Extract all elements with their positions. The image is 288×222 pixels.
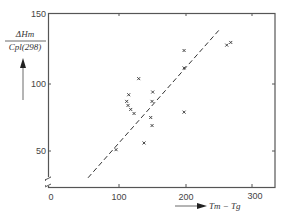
data-point-x-marker xyxy=(151,124,154,127)
data-point-x-marker xyxy=(151,91,154,94)
data-point-x-marker xyxy=(127,93,130,96)
data-point-x-marker xyxy=(225,44,228,47)
chart: 0 100 200 300 150 100 50 ΔHm Cpl(298) Tm… xyxy=(0,0,288,222)
plot-frame xyxy=(49,14,276,188)
x-tick-300: 300 xyxy=(247,191,262,201)
data-point-x-marker xyxy=(137,77,140,80)
data-point-x-marker xyxy=(127,104,130,107)
y-tick-100: 100 xyxy=(31,79,46,89)
data-point-x-marker xyxy=(151,100,154,103)
x-axis-label: Tm − Tg xyxy=(209,201,241,211)
data-point-x-marker xyxy=(143,141,146,144)
ticks xyxy=(48,13,275,187)
data-point-x-marker xyxy=(149,116,152,119)
x-tick-100: 100 xyxy=(111,192,126,202)
y-tick-50: 50 xyxy=(36,146,46,156)
fit-line xyxy=(88,30,219,177)
data-point-x-marker xyxy=(229,41,232,44)
y-axis-label-denominator: Cpl(298) xyxy=(9,42,42,52)
y-axis-arrow-icon xyxy=(20,58,26,68)
data-point-x-marker xyxy=(183,49,186,52)
data-point-x-marker xyxy=(129,108,132,111)
data-point-x-marker xyxy=(183,111,186,114)
data-point-x-marker xyxy=(125,100,128,103)
data-point-x-marker xyxy=(115,148,118,151)
x-tick-200: 200 xyxy=(178,192,193,202)
x-axis-arrow-icon xyxy=(197,203,207,209)
y-axis-label-numerator: ΔHm xyxy=(15,29,35,39)
y-tick-150: 150 xyxy=(31,9,46,19)
data-point-x-marker xyxy=(133,112,136,115)
x-tick-0: 0 xyxy=(48,192,53,202)
data-points xyxy=(115,41,233,151)
